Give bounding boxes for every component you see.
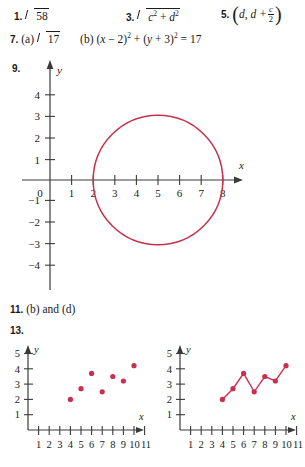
sqrt-c2-plus-d2: c2 + d2 [137,8,180,24]
y-tick-label: 2 [15,394,20,405]
answer-key-page: 1. 58 3. c2 + d2 5. (d, d +c2) 7. (a) 17… [0,0,305,467]
x-tick-label: 4 [220,439,226,450]
x-tick-label: 3 [57,439,62,450]
data-point [230,386,235,391]
answer-item-1: 1. 58 [14,8,49,23]
y-tick-label: 4 [167,364,173,375]
data-point [252,389,257,394]
y-tick-labels-13-right: 1 2 3 4 5 [167,348,173,420]
x-tick-labels-13-right: 1 2 3 4 5 6 7 8 9 10 11 [188,439,303,450]
y-tick-label: 1 [15,409,20,420]
graph-9-svg: 1 2 3 4 5 6 7 8 0 4 3 2 1 −1 −2 −3 −4 [0,58,305,293]
x-tick-label: 5 [230,439,235,450]
data-point [283,363,288,368]
graphs-13: 1 2 3 4 5 6 7 8 9 10 11 1 2 3 4 [0,340,305,467]
data-point [89,371,94,376]
x-tick-label: 5 [78,439,83,450]
answer-item-11: 11. (b) and (d) [10,303,75,315]
y-axis-label-13-right: y [185,344,191,355]
x-tick-label: 4 [134,187,140,199]
y-axis-arrow-icon [25,345,31,353]
answer-number-5: 5. [221,9,229,20]
x-tick-label: 9 [273,439,278,450]
x-tick-label: 8 [110,439,115,450]
x-tick-labels-9: 1 2 3 4 5 6 7 8 0 [37,187,226,199]
x-tick-label: 2 [199,439,204,450]
radicand-58: 58 [34,8,49,23]
x-tick-label: 1 [36,439,41,450]
y-tick-label: 5 [167,348,172,359]
data-point [220,397,225,402]
x-tick-label: 10 [281,439,292,450]
y-tick-label: 4 [35,89,41,101]
x-tick-label: 2 [47,439,52,450]
x-tick-label: 3 [112,187,118,199]
x-tick-label: 6 [177,187,183,199]
x-tick-labels-13-left: 1 2 3 4 5 6 7 8 9 10 11 [36,439,151,450]
answer-7-part-a-label: (a) [21,33,34,45]
data-point [262,374,267,379]
data-point [68,397,73,402]
y-axis-arrow-icon [177,345,183,353]
x-tick-label: 7 [100,439,105,450]
answer-number-13: 13. [10,324,24,336]
answer-item-7: 7. (a) 17 (b) (x − 2)2 + (y + 3)2 = 17 [10,31,201,46]
x-tick-label: 11 [141,439,151,450]
answer-11-text: (b) and (d) [26,303,75,315]
radicand-c2-d2: c2 + d2 [146,8,180,24]
answer-item-3: 3. c2 + d2 [126,8,180,24]
y-tick-label: 5 [15,348,20,359]
fraction-c-over-2: c2 [268,5,274,24]
y-tick-label: 2 [167,394,172,405]
data-point [241,371,246,376]
data-point [100,389,105,394]
x-tick-label: 10 [129,439,140,450]
y-tick-label: 3 [35,110,41,122]
x-axis-arrow-icon [234,177,243,184]
x-axis-label-13-left: x [138,411,144,422]
pair-second-lead: d + [250,8,266,20]
x-tick-label: 8 [262,439,267,450]
answer-number-11: 11. [10,304,23,315]
data-points-13-right [220,363,289,402]
x-tick-label: 4 [68,439,74,450]
y-tick-label: 2 [35,132,41,144]
sqrt-17: 17 [37,31,61,46]
x-axis-arrow-icon [288,427,296,433]
data-point [78,386,83,391]
data-point [121,378,126,383]
y-axis-label-13-left: y [33,344,39,355]
x-tick-label: 6 [89,439,94,450]
axes-9 [22,66,237,290]
data-point [110,374,115,379]
data-point [131,363,136,368]
y-tick-label: −2 [28,216,40,228]
answer-7-part-b-label: (b) [80,33,93,45]
data-point [273,378,278,383]
x-tick-label: 9 [121,439,126,450]
open-paren-icon: ( [232,3,239,25]
radicand-17: 17 [46,31,61,46]
graph-9-circle: 1 2 3 4 5 6 7 8 0 4 3 2 1 −1 −2 −3 −4 [0,58,305,293]
y-tick-label: 1 [167,409,172,420]
y-axis-arrow-icon [47,60,54,69]
answer-item-5: 5. (d, d +c2) [221,5,282,24]
y-tick-label: 1 [35,154,41,166]
graphs-13-svg: 1 2 3 4 5 6 7 8 9 10 11 1 2 3 4 [0,340,305,467]
answer-number-1: 1. [14,11,22,22]
y-axis-label-9: y [56,64,62,76]
scatter-13-left: 1 2 3 4 5 6 7 8 9 10 11 1 2 3 4 [15,344,151,450]
y-tick-label: −3 [28,238,40,250]
x-tick-label: 1 [69,187,75,199]
sqrt-58: 58 [25,8,49,23]
answer-number-7: 7. [10,34,18,45]
y-tick-label: 4 [15,364,21,375]
answer-7-part-b-expression: (x − 2)2 + (y + 3)2 = 17 [96,33,201,45]
x-tick-label: 3 [209,439,214,450]
y-tick-label: 3 [167,379,172,390]
x-axis-arrow-icon [136,427,144,433]
close-paren-icon: ) [275,3,282,25]
x-tick-label: 7 [252,439,257,450]
y-tick-label: −4 [28,259,40,271]
x-tick-label: 5 [155,187,161,199]
